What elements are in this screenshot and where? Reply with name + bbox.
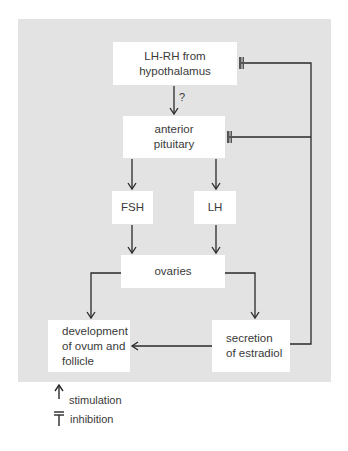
inhibition-bar-icon [227, 131, 230, 143]
edges-layer [0, 0, 348, 451]
legend-stimulation-label: stimulation [69, 394, 122, 406]
edge-label-question: ? [179, 91, 185, 103]
legend-inhibition-label: inhibition [70, 413, 113, 425]
inhibition-bar-icon [239, 57, 242, 69]
